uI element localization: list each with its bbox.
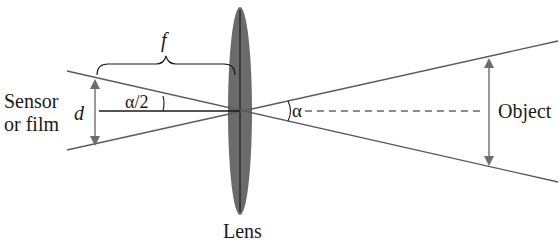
d-label: d [74, 103, 84, 123]
half-angle-label: α/2 [125, 93, 148, 111]
upper-ray [67, 71, 558, 182]
lens-label: Lens [223, 221, 262, 241]
object-label: Object [498, 101, 551, 121]
focal-length-brace [97, 56, 235, 75]
sensor-label-line2: or film [4, 114, 59, 134]
f-label: f [161, 30, 167, 50]
lens-diagram: Sensor or film d f α/2 α Object Lens [0, 0, 560, 248]
half-angle-arc [163, 96, 164, 111]
angle-arc [288, 101, 291, 121]
sensor-label-line1: Sensor [4, 91, 58, 111]
angle-label: α [292, 101, 302, 120]
diagram-canvas [0, 0, 560, 248]
